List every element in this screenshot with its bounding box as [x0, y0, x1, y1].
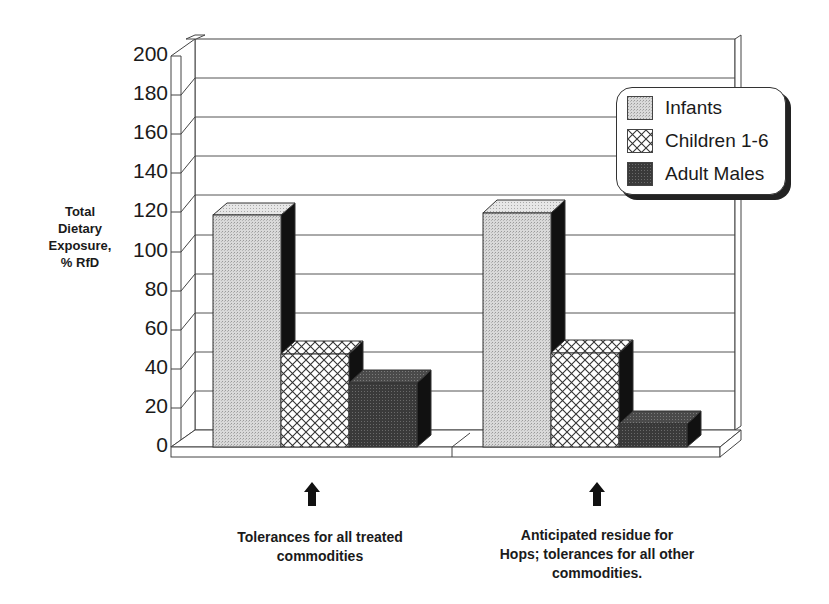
y-tick: 180	[108, 81, 168, 105]
legend-item-children: Children 1-6	[627, 128, 769, 154]
legend-item-infants: Infants	[627, 95, 722, 121]
arrow-up-icon	[304, 482, 320, 506]
y-tick: 140	[108, 159, 168, 183]
legend-swatch-children	[627, 129, 653, 153]
annotation-line: commodities.	[482, 564, 712, 583]
legend-swatch-adult-males	[627, 162, 653, 186]
y-tick: 20	[108, 394, 168, 418]
annotation-line: Hops; tolerances for all other	[482, 545, 712, 564]
bar-adult-males-g2	[619, 411, 701, 447]
y-tick: 40	[108, 355, 168, 379]
y-tick: 200	[108, 42, 168, 66]
y-tick: 100	[108, 238, 168, 262]
y-tick: 60	[108, 316, 168, 340]
bar-adult-males-g1	[349, 370, 431, 447]
annotation-group-1: Tolerances for all treated commodities	[205, 528, 435, 566]
legend-label: Adult Males	[665, 163, 764, 185]
y-tick: 120	[108, 198, 168, 222]
y-tick: 80	[108, 277, 168, 301]
annotation-line: Anticipated residue for	[482, 526, 712, 545]
legend-label: Children 1-6	[665, 130, 769, 152]
legend-label: Infants	[665, 97, 722, 119]
annotation-group-2: Anticipated residue for Hops; tolerances…	[482, 526, 712, 583]
arrow-up-icon	[589, 482, 605, 506]
legend-item-adult-males: Adult Males	[627, 161, 764, 187]
y-tick: 0	[108, 433, 168, 457]
y-axis-ticks: 200 180 160 140 120 100 80 60 40 20 0	[106, 0, 168, 604]
chart-legend: Infants Children 1-6 Adult Males	[616, 87, 786, 195]
y-tick: 160	[108, 120, 168, 144]
annotation-line: Tolerances for all treated	[205, 528, 435, 547]
annotation-line: commodities	[205, 547, 435, 566]
legend-swatch-infants	[627, 96, 653, 120]
